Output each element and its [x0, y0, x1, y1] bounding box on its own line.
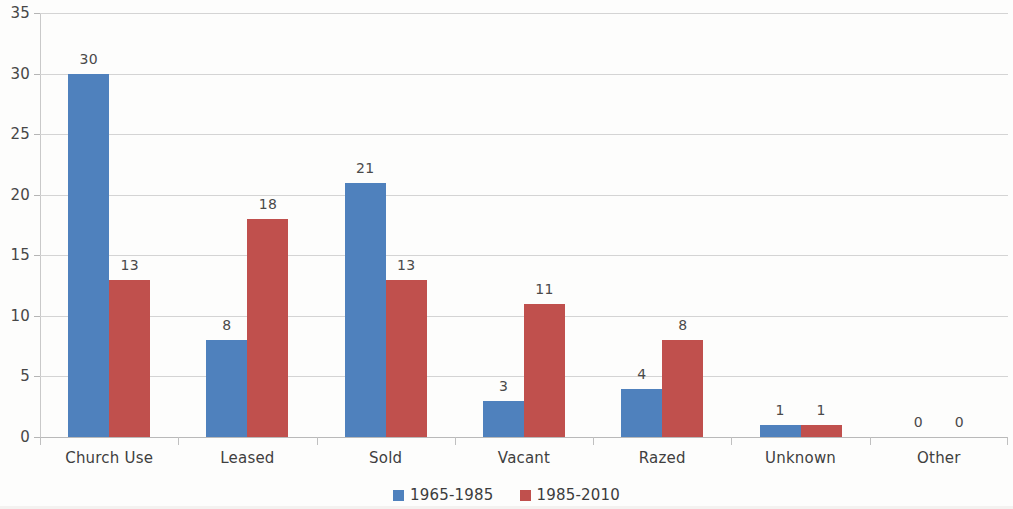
y-axis-labels: 05101520253035	[0, 0, 30, 509]
bar-value-label: 4	[637, 366, 646, 382]
bar-value-label: 8	[678, 317, 687, 333]
bar-value-label: 0	[914, 414, 923, 430]
y-axis-tick-label: 30	[0, 65, 30, 83]
x-axis-category-label: Church Use	[65, 449, 153, 467]
bar-value-label: 3	[499, 378, 508, 394]
chart-legend: 1965-19851985-2010	[0, 486, 1013, 504]
x-tick-mark	[1007, 437, 1008, 445]
y-axis-tick-label: 20	[0, 186, 30, 204]
x-axis-category-label: Vacant	[498, 449, 550, 467]
bar	[760, 425, 801, 437]
bar	[247, 219, 288, 437]
legend-item[interactable]: 1985-2010	[520, 486, 621, 504]
bar-chart: 05101520253035 30138182113311481100 Chur…	[0, 0, 1013, 509]
legend-swatch-icon	[393, 490, 404, 501]
bar-value-label: 8	[222, 317, 231, 333]
x-tick-mark	[593, 437, 594, 445]
x-tick-mark	[870, 437, 871, 445]
legend-swatch-icon	[520, 490, 531, 501]
bar-value-label: 11	[535, 281, 553, 297]
bar-value-label: 18	[259, 196, 277, 212]
bar	[345, 183, 386, 437]
bar	[621, 389, 662, 437]
bar	[206, 340, 247, 437]
bar-value-label: 0	[955, 414, 964, 430]
plot-area: 30138182113311481100	[40, 13, 1008, 437]
x-axis-labels: Church UseLeasedSoldVacantRazedUnknownOt…	[40, 449, 1008, 473]
y-axis-tick-label: 25	[0, 125, 30, 143]
x-axis-category-label: Unknown	[765, 449, 836, 467]
x-tick-mark	[731, 437, 732, 445]
bar	[483, 401, 524, 437]
x-axis-category-label: Leased	[220, 449, 274, 467]
bar	[662, 340, 703, 437]
y-axis-tick-label: 0	[0, 428, 30, 446]
bar	[109, 280, 150, 437]
y-axis-tick-label: 10	[0, 307, 30, 325]
y-axis-tick-label: 35	[0, 4, 30, 22]
bar-value-label: 21	[356, 160, 374, 176]
x-axis-category-label: Other	[917, 449, 961, 467]
bar-value-label: 13	[397, 257, 415, 273]
y-axis-tick-label: 15	[0, 246, 30, 264]
legend-label: 1985-2010	[537, 486, 621, 504]
bar	[68, 74, 109, 437]
bar-value-label: 1	[775, 402, 784, 418]
x-axis-category-label: Razed	[639, 449, 686, 467]
bar	[801, 425, 842, 437]
x-tick-mark	[178, 437, 179, 445]
y-axis-tick-label: 5	[0, 367, 30, 385]
legend-label: 1965-1985	[410, 486, 494, 504]
x-tick-mark	[317, 437, 318, 445]
x-axis-ticks	[40, 437, 1008, 445]
legend-item[interactable]: 1965-1985	[393, 486, 494, 504]
bar	[524, 304, 565, 437]
bar	[386, 280, 427, 437]
bar-value-label: 30	[79, 51, 97, 67]
bar-value-label: 1	[816, 402, 825, 418]
x-tick-mark	[455, 437, 456, 445]
bar-value-label: 13	[120, 257, 138, 273]
x-axis-category-label: Sold	[369, 449, 402, 467]
x-tick-mark	[40, 437, 41, 445]
